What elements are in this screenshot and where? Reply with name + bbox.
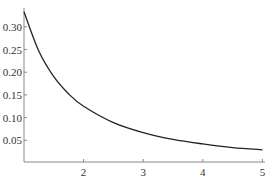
x-tick-label: 5 xyxy=(260,166,266,178)
y-tick-label: 0.25 xyxy=(3,44,23,56)
y-axis-ticks: 0.050.100.150.200.250.30 xyxy=(3,21,27,147)
x-tick-label: 4 xyxy=(200,166,206,178)
line-chart: 0.050.100.150.200.250.30 2345 xyxy=(0,0,267,189)
data-line xyxy=(24,12,262,150)
x-tick-label: 2 xyxy=(81,166,87,178)
x-tick-label: 3 xyxy=(140,166,146,178)
y-tick-label: 0.05 xyxy=(3,134,23,146)
y-tick-label: 0.10 xyxy=(3,112,23,124)
y-tick-label: 0.30 xyxy=(3,21,23,33)
y-tick-label: 0.15 xyxy=(3,89,23,101)
y-tick-label: 0.20 xyxy=(3,66,23,78)
